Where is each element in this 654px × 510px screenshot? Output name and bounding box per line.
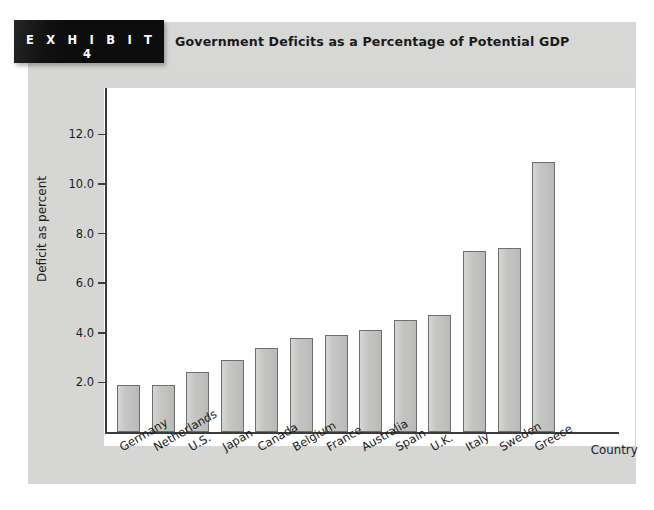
bar — [255, 348, 278, 432]
x-axis-title: Country — [591, 443, 638, 457]
y-tick-mark — [98, 183, 107, 185]
exhibit-number-tag: E X H I B I T 4 — [14, 20, 164, 63]
y-tick-mark — [98, 282, 107, 284]
bar — [498, 248, 521, 432]
bar — [394, 320, 417, 432]
y-tick-label: 2.0 — [54, 375, 94, 389]
exhibit-number-label: E X H I B I T 4 — [14, 33, 164, 61]
bar — [463, 251, 486, 432]
y-tick-mark — [98, 332, 107, 334]
y-tick-label: 8.0 — [54, 227, 94, 241]
bar — [428, 315, 451, 432]
bar — [221, 360, 244, 432]
y-tick-label: 10.0 — [54, 177, 94, 191]
bar — [290, 338, 313, 432]
bar — [325, 335, 348, 432]
y-tick-label: 12.0 — [54, 127, 94, 141]
y-axis-title: Deficit as percent — [35, 149, 49, 309]
y-tick-mark — [98, 134, 107, 136]
y-tick-label: 4.0 — [54, 326, 94, 340]
bar — [117, 385, 140, 432]
y-tick-mark — [98, 382, 107, 384]
exhibit-title: Government Deficits as a Percentage of P… — [175, 34, 569, 49]
y-tick-label: 6.0 — [54, 276, 94, 290]
bar — [359, 330, 382, 432]
y-tick-mark — [98, 233, 107, 235]
bar — [532, 162, 555, 432]
exhibit-page: E X H I B I T 4 Government Deficits as a… — [0, 0, 654, 510]
